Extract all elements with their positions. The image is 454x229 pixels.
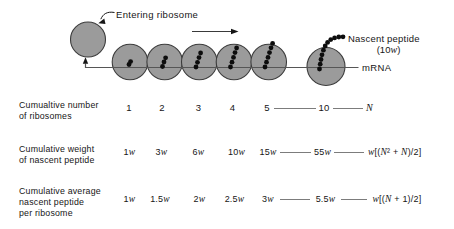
polysome-figure: Entering ribosome Nascent peptide (10w) … bbox=[0, 0, 454, 229]
row2-connector-line-1 bbox=[280, 152, 311, 153]
mrna-start-arrowhead-icon bbox=[83, 57, 88, 64]
row-label-cumulative-average: Cumulative average nascent peptide per r… bbox=[19, 186, 101, 219]
entering-ribosome-pointer-arrow bbox=[101, 12, 115, 19]
weight-formula-N: w[(N² + N)/2] bbox=[368, 146, 421, 157]
row1-connector-line-1 bbox=[274, 108, 316, 109]
movement-arrowhead-icon bbox=[231, 29, 239, 34]
ribosome-count-4: 4 bbox=[230, 102, 235, 113]
ribosome-count-3: 3 bbox=[196, 102, 201, 113]
weight-5: 15w bbox=[260, 146, 277, 157]
ribosome-count-N: N bbox=[366, 102, 373, 113]
mrna-label: mRNA bbox=[362, 62, 392, 73]
average-2: 1.5w bbox=[150, 193, 170, 204]
ribosome-count-2: 2 bbox=[159, 102, 164, 113]
ribosome-count-10: 10 bbox=[319, 102, 330, 113]
entering-ribosome-label: Entering ribosome bbox=[116, 9, 198, 20]
weight-1: 1w bbox=[124, 146, 136, 157]
row3-connector-line-1 bbox=[280, 199, 310, 200]
average-10: 5.5w bbox=[316, 193, 336, 204]
average-4: 2.5w bbox=[225, 193, 245, 204]
average-5: 3w bbox=[262, 193, 274, 204]
ribosome-count-1: 1 bbox=[126, 102, 131, 113]
row2-connector-line-2 bbox=[334, 152, 364, 153]
weight-10: 55w bbox=[314, 146, 331, 157]
ribosome-circle-n bbox=[307, 48, 345, 86]
row3-connector-line-2 bbox=[341, 199, 367, 200]
row-label-cumulative-number: Cumualtive number of ribosomes bbox=[19, 100, 99, 122]
weight-2: 3w bbox=[156, 146, 168, 157]
weight-4: 10w bbox=[228, 146, 245, 157]
row1-connector-line-2 bbox=[333, 108, 363, 109]
average-1: 1w bbox=[124, 193, 136, 204]
nascent-peptide-weight-label: (10w) bbox=[366, 44, 411, 55]
weight-3: 6w bbox=[193, 146, 205, 157]
nascent-peptide-label: Nascent peptide bbox=[348, 33, 420, 44]
row-label-cumulative-weight: Cumulative weight of nascent peptide bbox=[19, 144, 95, 166]
entering-ribosome-arrowhead-icon bbox=[98, 18, 105, 24]
ribosome-count-5: 5 bbox=[264, 102, 269, 113]
entering-ribosome-circle bbox=[71, 22, 106, 57]
average-formula-N: w[(N + 1)/2] bbox=[373, 193, 422, 204]
average-3: 2w bbox=[194, 193, 206, 204]
